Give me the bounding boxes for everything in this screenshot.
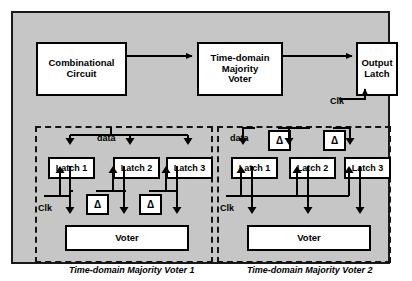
combinational-circuit-block: Combinational Circuit	[36, 42, 127, 96]
panel1-latch-1: Latch 1	[48, 157, 95, 179]
output-latch-block: Output Latch	[356, 42, 398, 96]
panel2-data-label: data	[230, 133, 249, 143]
panel1-delay-2-label: Δ	[147, 199, 154, 210]
panel1-data-label: data	[97, 133, 116, 143]
panel2-latch-1: Latch 1	[231, 157, 278, 179]
panel2-latch-1-label: Latch 1	[239, 163, 271, 173]
panel2-latch-3: Latch 3	[344, 157, 391, 179]
panel1-delay-2: Δ	[139, 194, 162, 215]
diagram-canvas: Combinational Circuit Time-domain Majori…	[0, 0, 412, 281]
panel2-delay-1-label: Δ	[276, 135, 283, 146]
panel1-latch-2: Latch 2	[113, 157, 160, 179]
panel1-latch-1-label: Latch 1	[56, 163, 88, 173]
panel1-voter-block: Voter	[65, 225, 189, 251]
combinational-circuit-label-line1: Combinational	[49, 57, 115, 68]
tmv-label-line3: Voter	[228, 73, 252, 84]
panel2-caption: Time-domain Majority Voter 2	[247, 265, 373, 275]
panel1-caption: Time-domain Majority Voter 1	[69, 265, 195, 275]
panel2-voter-label: Voter	[297, 233, 321, 244]
combinational-circuit-label-line2: Circuit	[66, 68, 96, 79]
panel1-delay-1-label: Δ	[94, 199, 101, 210]
panel2-delay-1: Δ	[268, 130, 291, 151]
time-domain-majority-voter-block: Time-domain Majority Voter	[197, 42, 283, 96]
tmv-label-line2: Majority	[222, 63, 258, 74]
panel2-latch-3-label: Latch 3	[352, 163, 384, 173]
panel2-latch-2-label: Latch 2	[297, 163, 329, 173]
panel1-latch-3: Latch 3	[166, 157, 213, 179]
panel1-clk-label: Clk	[38, 203, 52, 213]
panel1-latch-3-label: Latch 3	[174, 163, 206, 173]
output-latch-label-line2: Latch	[364, 68, 389, 79]
outer-panel: Combinational Circuit Time-domain Majori…	[11, 11, 390, 264]
panel2-delay-2-label: Δ	[331, 135, 338, 146]
panel2-delay-2: Δ	[323, 130, 346, 151]
panel2-clk-label: Clk	[220, 203, 234, 213]
tmv-label-line1: Time-domain	[211, 52, 270, 63]
panel2-latch-2: Latch 2	[289, 157, 336, 179]
panel2-voter-block: Voter	[247, 225, 371, 251]
panel1-delay-1: Δ	[86, 194, 109, 215]
panel1-latch-2-label: Latch 2	[121, 163, 153, 173]
output-latch-label-line1: Output	[361, 57, 392, 68]
output-clk-label: Clk	[330, 96, 344, 106]
panel1-voter-label: Voter	[115, 233, 139, 244]
